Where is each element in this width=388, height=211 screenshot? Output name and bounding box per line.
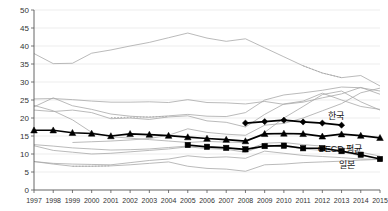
x-tick-label: 2003 <box>142 197 158 204</box>
x-tick-label: 2004 <box>161 197 177 204</box>
data-point-marker <box>377 156 382 161</box>
x-tick-label: 2005 <box>180 197 196 204</box>
x-tick-label: 2009 <box>257 197 273 204</box>
x-tick-label: 2012 <box>315 197 331 204</box>
data-point-marker <box>224 145 229 150</box>
y-tick-label: 15 <box>20 132 29 141</box>
x-tick-label: 2015 <box>372 197 388 204</box>
x-tick-label: 2006 <box>199 197 215 204</box>
data-point-marker <box>262 143 267 148</box>
y-axis-ticks: 05101520253035404550 <box>20 6 34 195</box>
data-point-marker <box>204 144 209 149</box>
y-tick-label: 5 <box>25 168 30 177</box>
x-tick-label: 2008 <box>238 197 254 204</box>
chart-canvas: 05101520253035404550 1997199819992000200… <box>0 0 388 211</box>
data-point-marker <box>300 119 306 125</box>
background-series-bg-4-dotted <box>111 117 169 118</box>
x-tick-label: 2001 <box>103 197 119 204</box>
y-tick-label: 30 <box>20 78 29 87</box>
line-chart: 05101520253035404550 1997199819992000200… <box>0 0 388 211</box>
y-tick-label: 25 <box>20 96 29 105</box>
data-point-marker <box>185 142 190 147</box>
data-point-marker <box>281 143 286 148</box>
y-tick-label: 45 <box>20 24 29 33</box>
x-tick-label: 2013 <box>334 197 350 204</box>
data-point-marker <box>319 120 325 126</box>
y-tick-label: 50 <box>20 6 29 15</box>
background-series-bg-top <box>34 33 380 86</box>
series-OECD 평균 <box>31 127 384 144</box>
y-tick-label: 10 <box>20 150 29 159</box>
x-tick-label: 2011 <box>296 197 311 204</box>
x-tick-label: 2000 <box>84 197 100 204</box>
series-label-한국: 한국 <box>328 111 344 121</box>
x-tick-label: 1999 <box>65 197 81 204</box>
highlighted-series-group <box>31 117 384 162</box>
data-point-marker <box>262 119 268 125</box>
y-tick-label: 35 <box>20 60 29 69</box>
y-tick-label: 40 <box>20 42 29 51</box>
series-labels-group: 한국OECD 평균일본 <box>318 111 363 170</box>
series-label-일본: 일본 <box>339 160 355 170</box>
y-tick-label: 20 <box>20 114 29 123</box>
data-point-marker <box>338 122 344 128</box>
x-tick-label: 1998 <box>45 197 61 204</box>
x-tick-label: 2010 <box>276 197 292 204</box>
background-series-bg-10 <box>34 159 380 171</box>
x-tick-label: 1997 <box>26 197 42 204</box>
data-point-marker <box>300 146 305 151</box>
x-tick-label: 2002 <box>122 197 138 204</box>
x-axis-ticks: 1997199819992000200120022003200420052006… <box>26 190 388 204</box>
x-tick-label: 2007 <box>218 197 234 204</box>
data-point-marker <box>243 147 248 152</box>
background-series-bg-2 <box>34 87 380 104</box>
y-tick-label: 0 <box>25 186 30 195</box>
x-tick-label: 2014 <box>353 197 369 204</box>
series-label-OECD 평균: OECD 평균 <box>318 144 363 154</box>
